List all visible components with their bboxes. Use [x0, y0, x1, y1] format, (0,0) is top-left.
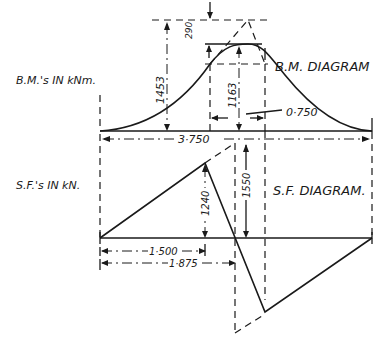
dim-span: 3·750	[178, 133, 210, 146]
dim-1-500: 1·500	[149, 246, 178, 257]
bm-dashed-triangle	[210, 20, 265, 64]
bm-sf-diagram: 290 1453 1163 0·750 3·750 B.M. DIAGRAM B…	[0, 0, 387, 349]
dim-1240: 1240	[200, 191, 211, 216]
dim-290: 290	[184, 22, 194, 39]
dim-0-750: 0·750	[286, 106, 318, 119]
dim-1453: 1453	[154, 76, 167, 104]
sf-diagram-title: S.F. DIAGRAM.	[273, 183, 366, 198]
bm-diagram: 290 1453 1163 0·750 3·750 B.M. DIAGRAM B…	[16, 2, 372, 238]
bm-diagram-title: B.M. DIAGRAM	[275, 59, 370, 74]
bm-units-label: B.M.'s IN kNm.	[16, 74, 96, 87]
sf-units-label: S.F.'s IN kN.	[16, 179, 80, 192]
sf-diagram: 1240 1550 1·500 1·875 S.F. DIAGRAM. S.F.…	[16, 131, 372, 333]
dim-1163: 1163	[227, 83, 238, 108]
dim-1-875: 1·875	[169, 258, 198, 269]
dim-1550: 1550	[241, 173, 252, 198]
